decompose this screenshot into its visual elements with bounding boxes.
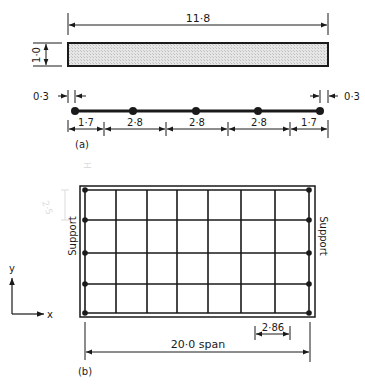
support-node <box>306 281 312 287</box>
axis-indicator <box>12 278 44 314</box>
end-offset-right-label: 0·3 <box>344 91 360 102</box>
beam-node <box>192 107 200 115</box>
support-node <box>306 187 312 193</box>
support-node <box>306 250 312 256</box>
segment-label-2: 2·8 <box>127 117 143 128</box>
beam-node <box>254 107 262 115</box>
grillage-grid <box>85 190 309 313</box>
end-offset-dimensions <box>58 90 338 103</box>
segment-label-4: 2·8 <box>251 117 267 128</box>
support-node <box>82 281 88 287</box>
support-node <box>82 250 88 256</box>
support-node <box>306 217 312 223</box>
beam-node <box>71 107 79 115</box>
depth-label: 1·0 <box>31 47 42 63</box>
support-node <box>306 310 312 316</box>
caption-a: (a) <box>75 139 89 150</box>
part-a: 11·8 1·0 0·3 0·3 <box>31 12 360 150</box>
support-node <box>82 310 88 316</box>
pencil-note-25: 2·5 <box>40 199 54 216</box>
segment-label-1: 1·7 <box>78 117 94 128</box>
support-node <box>82 217 88 223</box>
segment-label-3: 2·8 <box>189 117 205 128</box>
grid-spacing-label: 2·86 <box>262 322 284 333</box>
support-node <box>82 187 88 193</box>
slab-section <box>68 43 328 66</box>
beam-node <box>316 107 324 115</box>
part-b: Support Support 2·86 20·0 span y x (b) <box>9 186 329 377</box>
end-offset-left-label: 0·3 <box>33 91 49 102</box>
axis-x-label: x <box>47 309 53 320</box>
structural-diagram: 11·8 1·0 0·3 0·3 <box>0 0 365 389</box>
overall-length-label: 11·8 <box>186 12 211 25</box>
pencil-note-h: H <box>82 162 92 169</box>
span-label: 20·0 span <box>171 338 225 351</box>
support-right-label: Support <box>318 216 329 256</box>
segment-label-5: 1·7 <box>301 117 317 128</box>
beam-node <box>129 107 137 115</box>
support-left-label: Support <box>67 216 78 256</box>
axis-y-label: y <box>9 263 15 274</box>
caption-b: (b) <box>78 366 92 377</box>
